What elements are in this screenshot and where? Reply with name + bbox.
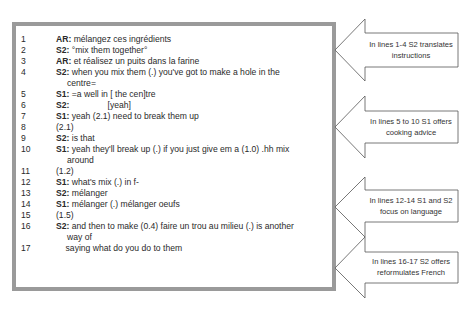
annotation-text: In lines 12-14 S1 and S2 — [358, 195, 464, 206]
annotation-label-3: In lines 12-14 S1 and S2 focus on langua… — [358, 195, 464, 217]
annotation-label-4: In lines 16-17 S2 offers reformulates Fr… — [358, 256, 464, 278]
annotation-text: In lines 16-17 S2 offers — [358, 256, 464, 267]
annotation-text: instructions — [358, 50, 464, 61]
annotation-text: In lines 1-4 S2 translates — [358, 39, 464, 50]
annotation-text: reformulates French — [358, 267, 464, 278]
annotation-text: focus on language — [358, 206, 464, 217]
annotation-text: cooking advice — [358, 127, 464, 138]
annotation-text: In lines 5 to 10 S1 offers — [358, 116, 464, 127]
annotation-label-1: In lines 1-4 S2 translates instructions — [358, 39, 464, 61]
annotation-label-2: In lines 5 to 10 S1 offers cooking advic… — [358, 116, 464, 138]
